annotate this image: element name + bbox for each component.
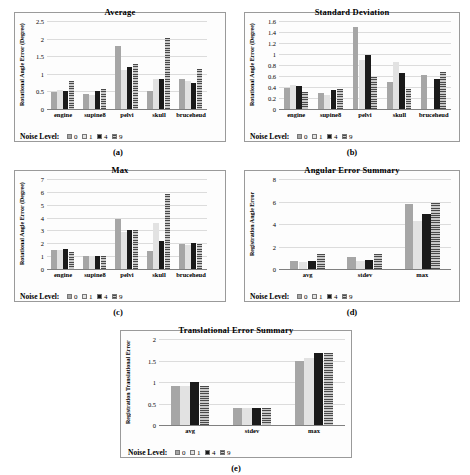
legend-item-9[interactable]: 9 [112,293,122,301]
bar [252,408,261,425]
legend-item-1[interactable]: 1 [312,133,322,141]
legend-item-label: 1 [319,133,323,141]
y-axis-tick: 2.5 [36,18,47,25]
y-axis-tick: 6 [273,198,279,205]
bar [165,38,170,109]
y-axis-tick: 1.6 [268,18,279,25]
legend-item-label: 0 [304,133,308,141]
x-axis-tick: skull [152,111,165,118]
gridline [279,32,451,33]
bar [159,79,164,109]
y-axis-tick: 1 [153,379,159,386]
bar [153,223,158,269]
legend-title: Noise Level: [250,292,289,301]
x-axis-tick: skull [152,271,165,278]
y-axis-tick: 0 [273,106,279,113]
chart-title: Standard Deviation [245,7,459,17]
legend-item-0[interactable]: 0 [67,293,77,301]
bar [304,358,313,426]
legend-item-0[interactable]: 0 [297,133,307,141]
bar [200,386,209,425]
bar [89,95,94,109]
bar [101,89,106,109]
legend-item-9[interactable]: 9 [112,133,122,141]
legend-swatch-icon [190,450,195,455]
bar [296,86,302,109]
y-axis-tick: 1.5 [148,357,159,364]
y-axis-label: Registration Translational Error [125,339,131,425]
chart-title: Translational Error Summary [121,325,351,335]
legend-item-1[interactable]: 1 [312,293,322,301]
bar [318,93,324,109]
y-axis-tick: 2 [273,243,279,250]
bar [83,94,88,109]
legend-item-4[interactable]: 4 [97,293,107,301]
y-axis-tick: 0.5 [148,400,159,407]
bar [308,261,316,269]
x-axis-tick: bruceheud [176,271,206,278]
legend-item-label: 1 [89,293,93,301]
legend-item-4[interactable]: 4 [205,449,215,457]
bar [374,254,382,269]
bar [406,89,412,109]
legend-swatch-icon [220,450,225,455]
legend-item-0[interactable]: 0 [67,133,77,141]
y-axis-tick: 2 [41,240,47,247]
legend-item-label: 0 [182,449,186,457]
legend-item-9[interactable]: 9 [342,293,352,301]
legend-item-1[interactable]: 1 [190,449,200,457]
bar [179,244,184,269]
y-axis-label: Registration Angle Error [249,179,255,269]
x-axis-tick: engine [54,271,72,278]
bar [284,88,290,109]
legend-swatch-icon [297,134,302,139]
legend-item-9[interactable]: 9 [342,133,352,141]
legend-item-label: 4 [212,449,216,457]
bar [191,243,196,269]
legend-swatch-icon [205,450,210,455]
bar [191,83,196,109]
y-axis-tick: 2 [153,336,159,343]
bar [95,256,100,269]
bar [127,67,132,109]
bar [115,219,120,269]
legend-item-label: 4 [334,133,338,141]
chart-title: Average [15,7,225,17]
legend-item-1[interactable]: 1 [82,133,92,141]
legend-item-4[interactable]: 4 [327,133,337,141]
x-axis-tick: supine8 [320,111,341,118]
legend-item-9[interactable]: 9 [220,449,230,457]
panel-caption: (a) [98,147,138,157]
legend-item-0[interactable]: 0 [297,293,307,301]
legend-item-1[interactable]: 1 [82,293,92,301]
bar [197,69,202,109]
legend-item-4[interactable]: 4 [327,293,337,301]
legend-item-0[interactable]: 0 [175,449,185,457]
legend-title: Noise Level: [128,448,167,457]
legend-item-label: 4 [334,293,338,301]
gridline [47,205,207,206]
gridline [47,192,207,193]
x-axis-tick: engine [54,111,72,118]
legend-swatch-icon [67,294,72,299]
legend-title: Noise Level: [20,132,59,141]
legend-swatch-icon [97,134,102,139]
y-axis-label: Rotational Angle Error (Degree) [19,179,25,269]
bar [165,194,170,269]
x-axis-tick: bruceheud [176,111,206,118]
bar [101,256,106,269]
y-axis-tick: 0.2 [268,95,279,102]
y-axis-tick: 0 [153,422,159,429]
legend-item-label: 9 [349,133,353,141]
bar [83,256,88,270]
bar [180,386,189,425]
bar [127,230,132,269]
bar [69,81,74,109]
x-axis-tick: max [416,271,428,278]
legend-swatch-icon [312,294,317,299]
chart-title: Max [15,165,225,175]
x-axis-tick: supine8 [84,271,105,278]
bar [353,27,359,110]
legend-item-4[interactable]: 4 [97,133,107,141]
gridline [47,218,207,219]
